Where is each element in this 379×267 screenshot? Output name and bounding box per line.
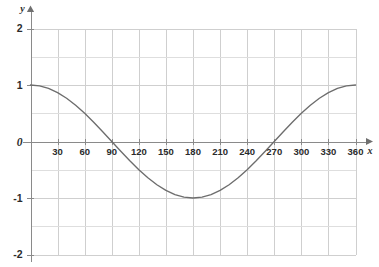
y-tick-label: 1 <box>17 79 23 91</box>
y-tick-label: 2 <box>17 22 23 34</box>
x-tick-label: 210 <box>212 146 228 157</box>
y-axis-arrow-icon <box>27 6 34 13</box>
x-tick-label: 30 <box>52 146 63 157</box>
x-tick-label: 360 <box>348 146 364 157</box>
origin-label: 0 <box>17 136 23 148</box>
x-tick-label: 60 <box>79 146 90 157</box>
y-tick-label: -2 <box>13 248 22 260</box>
cosine-graph: 306090120150180210240270300330360 21-1-2… <box>0 0 379 267</box>
y-tick-label: -1 <box>13 192 22 204</box>
x-tick-label: 180 <box>185 146 201 157</box>
chart-canvas: 306090120150180210240270300330360 21-1-2… <box>0 0 379 267</box>
x-tick-label: 270 <box>266 146 282 157</box>
x-tick-label: 150 <box>158 146 174 157</box>
vertical-gridlines <box>59 29 357 255</box>
x-tick-label: 90 <box>106 146 117 157</box>
x-tick-label: 120 <box>131 146 147 157</box>
x-axis-tick-labels: 306090120150180210240270300330360 <box>52 146 363 157</box>
x-axis-label: x <box>367 145 373 156</box>
axes-group <box>23 6 374 263</box>
x-tick-label: 240 <box>239 146 255 157</box>
x-axis-tick-marks <box>59 139 357 145</box>
x-tick-label: 330 <box>320 146 336 157</box>
x-tick-label: 300 <box>293 146 309 157</box>
y-axis-label: y <box>19 3 25 14</box>
